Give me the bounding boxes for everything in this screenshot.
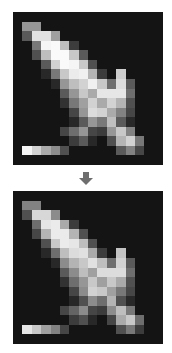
pixel-cell [51,325,60,335]
pixel-cell [69,287,78,297]
pixel-cell [97,12,106,22]
pixel-cell [116,325,125,335]
pixel-cell [60,98,69,108]
pixel-cell [154,296,163,306]
pixel-cell [97,79,106,89]
pixel-cell [32,306,41,316]
pixel-cell [126,136,135,146]
pixel-cell [79,277,88,287]
pixel-cell [51,210,60,220]
pixel-cell [135,79,144,89]
pixel-cell [22,146,31,156]
pixel-cell [116,248,125,258]
pixel-cell [60,146,69,156]
pixel-cell [135,41,144,51]
pixel-cell [60,108,69,118]
pixel-cell [69,60,78,70]
pixel-cell [79,315,88,325]
pixel-cell [144,268,153,278]
pixel-cell [154,325,163,335]
pixel-cell [60,12,69,22]
pixel-cell [97,229,106,239]
sprite-before-panel [13,12,163,165]
pixel-cell [69,12,78,22]
pixel-cell [41,277,50,287]
pixel-cell [154,22,163,32]
pixel-cell [41,306,50,316]
pixel-cell [97,296,106,306]
pixel-cell [97,325,106,335]
pixel-cell [60,201,69,211]
pixel-cell [154,31,163,41]
pixel-cell [97,191,106,201]
pixel-cell [22,315,31,325]
pixel-cell [69,117,78,127]
pixel-cell [13,12,22,22]
pixel-cell [154,50,163,60]
pixel-cell [126,117,135,127]
pixel-cell [22,127,31,137]
pixel-cell [41,60,50,70]
pixel-cell [41,229,50,239]
pixel-cell [144,229,153,239]
pixel-cell [116,22,125,32]
pixel-cell [88,22,97,32]
pixel-cell [116,127,125,137]
pixel-cell [22,229,31,239]
pixel-cell [88,31,97,41]
pixel-cell [13,201,22,211]
pixel-cell [13,210,22,220]
pixel-cell [107,108,116,118]
pixel-cell [41,98,50,108]
pixel-cell [69,127,78,137]
pixel-cell [88,268,97,278]
pixel-cell [154,41,163,51]
pixel-cell [154,191,163,201]
pixel-cell [107,239,116,249]
pixel-cell [79,296,88,306]
pixel-cell [88,334,97,344]
pixel-cell [41,155,50,165]
pixel-cell [69,41,78,51]
pixel-cell [116,117,125,127]
pixel-cell [116,268,125,278]
pixel-cell [41,108,50,118]
pixel-cell [13,229,22,239]
pixel-cell [88,306,97,316]
pixel-cell [135,334,144,344]
pixel-cell [32,201,41,211]
pixel-cell [13,50,22,60]
pixel-cell [116,50,125,60]
pixel-cell [144,69,153,79]
pixel-cell [88,155,97,165]
pixel-cell [144,127,153,137]
pixel-cell [32,287,41,297]
pixel-cell [51,258,60,268]
pixel-cell [60,239,69,249]
pixel-cell [22,268,31,278]
pixel-cell [79,146,88,156]
pixel-cell [144,248,153,258]
pixel-cell [88,239,97,249]
pixel-cell [79,155,88,165]
pixel-cell [97,146,106,156]
pixel-cell [107,210,116,220]
pixel-cell [60,220,69,230]
pixel-cell [22,155,31,165]
pixel-cell [144,98,153,108]
pixel-cell [60,315,69,325]
pixel-cell [79,191,88,201]
pixel-cell [69,229,78,239]
pixel-cell [97,50,106,60]
pixel-cell [41,89,50,99]
pixel-cell [22,306,31,316]
pixel-cell [135,146,144,156]
pixel-cell [51,220,60,230]
pixel-cell [135,315,144,325]
pixel-cell [135,127,144,137]
pixel-cell [41,287,50,297]
pixel-cell [22,210,31,220]
pixel-cell [88,277,97,287]
pixel-cell [13,325,22,335]
pixel-cell [144,155,153,165]
